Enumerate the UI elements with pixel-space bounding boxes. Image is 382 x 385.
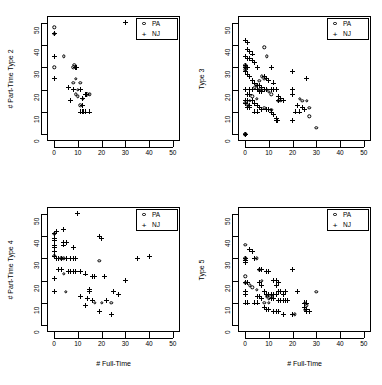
panel-type5-x-tick	[269, 332, 270, 338]
panel-type5-y-axis-title: Type 5	[198, 259, 205, 280]
panel-type5-y-tick	[232, 281, 238, 282]
panel-type5-y-axis	[232, 214, 233, 326]
panel-type5-legend-marker-nj: +	[331, 222, 339, 230]
panel-type5-y-tick-label: 20	[225, 280, 232, 296]
panel-type5-x-tick	[364, 332, 365, 338]
panel-type5-y-tick-label: 50	[225, 213, 232, 229]
panel-type5-x-tick	[316, 332, 317, 338]
panel-type5-y-tick-label: 0	[225, 325, 232, 341]
panel-type5-x-axis	[245, 338, 364, 339]
panel-type5-x-tick-label: 40	[337, 341, 344, 348]
panel-type5-x-tick	[245, 332, 246, 338]
panel-type5-legend-marker-pa	[331, 212, 339, 216]
panel-type5-x-tick-label: 10	[265, 341, 272, 348]
panel-type5-x-tick-label: 0	[243, 341, 247, 348]
panel-type5-y-tick-label: 40	[225, 235, 232, 251]
panel-type5-x-tick-label: 50	[360, 341, 367, 348]
panel-type5-y-tick	[232, 258, 238, 259]
scatterplot-figure: 0102030405001020304050# Part-Time Type 2…	[0, 0, 382, 385]
panel-type5-y-tick-label: 30	[225, 258, 232, 274]
panel-type5-x-axis-title: # Full-Time	[287, 360, 322, 367]
panel-type5-x-tick-label: 30	[313, 341, 320, 348]
panel-type5-y-tick-label: 10	[225, 302, 232, 318]
panel-type5-y-tick	[232, 236, 238, 237]
panel-type5-x-tick	[293, 332, 294, 338]
panel-type5-legend-label-nj: NJ	[343, 222, 351, 229]
panel-type5-y-tick	[232, 325, 238, 326]
panel-type5-x-tick	[340, 332, 341, 338]
panel-type5-y-tick	[232, 303, 238, 304]
panel-type5-legend-label-pa: PA	[343, 212, 351, 219]
panel-panel-type5: 0102030405001020304050Type 5# Full-TimeP…	[0, 0, 382, 385]
panel-type5-x-tick-label: 20	[289, 341, 296, 348]
panel-type5-y-tick	[232, 214, 238, 215]
